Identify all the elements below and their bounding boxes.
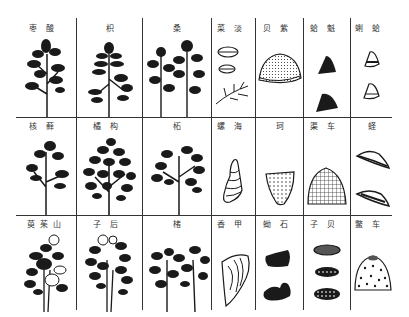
cell-zhi: 枳 [77, 20, 142, 117]
shell-illustration [304, 132, 350, 215]
cell-label: 菜淡 [212, 22, 255, 33]
plant-illustration [77, 132, 142, 215]
cell-beizi: 子贝 [304, 216, 350, 312]
cell-label: 蛤魁 [304, 22, 350, 33]
shell-illustration [304, 230, 350, 312]
plant-illustration [16, 132, 76, 215]
cell-label: 枳 [77, 22, 142, 33]
cell-label: 珂 [256, 120, 303, 131]
cell-label: 贝紫 [256, 22, 303, 33]
plant-illustration [16, 34, 76, 117]
shell-illustration [351, 132, 392, 215]
cell-ke: 珂 [256, 118, 303, 215]
cell-label: 鳖车 [351, 218, 392, 229]
shell-illustration [212, 230, 255, 312]
shell-illustration [256, 132, 303, 215]
shell-illustration [351, 34, 392, 117]
cell-label: 香甲 [212, 218, 255, 229]
cell-chequ: 渠车 [304, 118, 350, 215]
cell-label: 柘 [143, 120, 211, 131]
shell-illustration [256, 34, 303, 117]
shell-illustration [351, 230, 392, 312]
cell-gelì: 蜊蛤 [351, 20, 392, 117]
cell-zhe: 柘 [143, 118, 211, 215]
plant-illustration [143, 132, 211, 215]
cell-dancai: 菜淡 [212, 20, 255, 117]
cell-label: 蜊蛤 [351, 22, 392, 33]
cell-label: 桑 [143, 22, 211, 33]
plant-illustration [143, 230, 211, 312]
shell-illustration [212, 132, 255, 215]
cell-shanzhuyu: 萸茱山 [16, 216, 76, 312]
cell-chebie: 鳖车 [351, 216, 392, 312]
cell-houzi: 子后 [77, 216, 142, 312]
cell-label: 子后 [77, 218, 142, 229]
cell-label: 核藓 [16, 120, 76, 131]
plant-illustration [143, 34, 211, 117]
cell-kuige: 蛤魁 [304, 20, 350, 117]
cell-suanzao: 枣酸 [16, 20, 76, 117]
cell-zibei: 贝紫 [256, 20, 303, 117]
cell-hailuo: 螺海 [212, 118, 255, 215]
cell-label: 蚴石 [256, 218, 303, 229]
cell-label: 萸茱山 [16, 218, 76, 229]
cell-label: 渠车 [304, 120, 350, 131]
shell-illustration [304, 34, 350, 117]
cell-chu: 楮 [143, 216, 211, 312]
shell-illustration [212, 34, 255, 117]
cell-shiyou: 蚴石 [256, 216, 303, 312]
cell-label: 子贝 [304, 218, 350, 229]
cell-gouju: 橘构 [77, 118, 142, 215]
cell-label: 楮 [143, 218, 211, 229]
plant-illustration [77, 230, 142, 312]
cell-label: 橘构 [77, 120, 142, 131]
cell-jiaxiang: 香甲 [212, 216, 255, 312]
cell-sang: 桑 [143, 20, 211, 117]
cell-label: 螺海 [212, 120, 255, 131]
cell-label: 蛏 [351, 120, 392, 131]
cell-cheng: 蛏 [351, 118, 392, 215]
stone-illustration [256, 230, 303, 312]
plant-illustration [16, 230, 76, 312]
cell-label: 枣酸 [16, 22, 76, 33]
illustration-plate: 枣酸 枳 桑 [0, 0, 409, 317]
plant-illustration [77, 34, 142, 117]
cell-hexian: 核藓 [16, 118, 76, 215]
